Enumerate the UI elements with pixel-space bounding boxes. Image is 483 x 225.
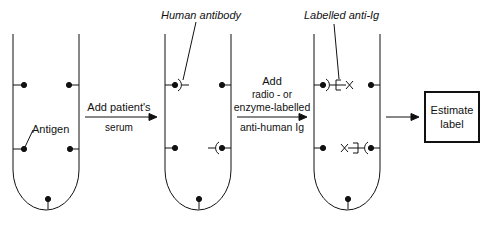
test-tube-1	[13, 34, 79, 210]
test-tube-2	[165, 34, 231, 210]
arrow-2	[237, 114, 307, 121]
arrow-2-label-line2: radio - or	[232, 88, 312, 101]
arrow-2-label-line3: enzyme-labelled	[232, 101, 312, 114]
test-tube-3	[314, 34, 380, 210]
arrow-2-label-line4: anti-human Ig	[232, 121, 312, 134]
tube-2-contents	[165, 22, 231, 209]
arrow-1-label-bottom: serum	[84, 121, 154, 134]
antigen-label: Antigen	[32, 123, 69, 136]
arrow-1-label-top: Add patient's	[84, 101, 154, 114]
arrow-3	[386, 114, 419, 121]
estimate-box-line1: Estimate	[431, 103, 474, 117]
arrow-2-label-line1: Add	[232, 75, 312, 88]
estimate-label-box: Estimate label	[424, 91, 480, 143]
tube-3-contents	[314, 24, 380, 209]
human-antibody-label: Human antibody	[161, 9, 241, 22]
labelled-anti-ig-label: Labelled anti-Ig	[304, 9, 379, 22]
estimate-box-line2: label	[431, 117, 474, 131]
arrow-1	[85, 114, 157, 121]
tube-1-antigens	[13, 82, 79, 209]
